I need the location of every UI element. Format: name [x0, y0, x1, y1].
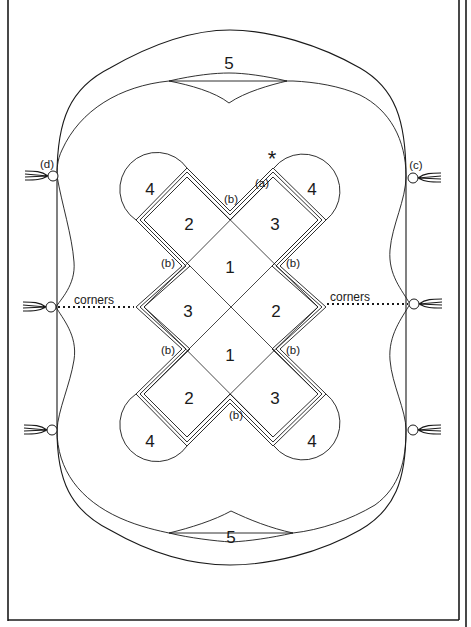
- section-3-bottom-right: 3: [270, 389, 279, 408]
- x-grid-lines: [144, 177, 318, 437]
- label-b-right-upper: (b): [286, 257, 300, 269]
- label-d: (d): [40, 158, 54, 170]
- label-b-right-lower: (b): [286, 344, 300, 356]
- tassel-icon: [408, 173, 441, 183]
- tassel-icon: [408, 425, 441, 435]
- section-1-upper: 1: [225, 258, 234, 277]
- section-4-bottom-left: 4: [145, 432, 154, 451]
- section-5-top: 5: [224, 54, 233, 73]
- label-c: (c): [409, 159, 423, 171]
- tassel-icon: [23, 302, 56, 312]
- label-b-top: (b): [224, 193, 238, 205]
- asterisk-marker: *: [268, 146, 277, 171]
- pattern-diagram: 5 5 4 4 4 4 2 3 1 3 2 1 2 3 (a) (b) (b) …: [0, 0, 471, 627]
- section-1-lower: 1: [225, 346, 234, 365]
- section-numbers: 5 5 4 4 4 4 2 3 1 3 2 1 2 3: [145, 54, 316, 547]
- section-2-right: 2: [271, 302, 280, 321]
- section-4-top-right: 4: [307, 180, 316, 199]
- section-3-top-right: 3: [270, 215, 279, 234]
- corners-label-right: corners: [330, 290, 370, 304]
- label-b-left-upper: (b): [161, 257, 175, 269]
- section-4-bottom-right: 4: [307, 432, 316, 451]
- tassel-icon: [25, 171, 58, 181]
- tassel-icon: [409, 299, 442, 309]
- section-2-bottom-left: 2: [184, 389, 193, 408]
- section-3-left: 3: [183, 302, 192, 321]
- section-2-top-left: 2: [184, 215, 193, 234]
- section-5-bottom: 5: [226, 528, 235, 547]
- label-b-bottom: (b): [229, 409, 243, 421]
- label-a: (a): [255, 177, 269, 189]
- section-4-top-left: 4: [145, 180, 154, 199]
- label-b-left-lower: (b): [161, 344, 175, 356]
- section-5-top-shape: [169, 73, 287, 103]
- tassel-icon: [24, 425, 57, 435]
- corners-label-left: corners: [74, 293, 114, 307]
